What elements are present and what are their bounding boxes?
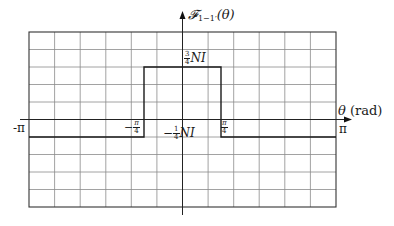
- tick-neg-pi-over-4: −π4: [124, 120, 140, 135]
- tick-left-end: -π: [13, 122, 25, 134]
- level-high-suffix: NI: [190, 51, 205, 65]
- y-axis-symbol: 𝓕: [188, 7, 198, 22]
- y-axis-arrow-icon: [180, 11, 186, 19]
- y-axis-subscript: 1−1′: [198, 14, 217, 23]
- level-low-sign: −: [163, 126, 173, 140]
- fraction-denominator: 4: [133, 128, 139, 135]
- tick-neg-sign: −: [124, 121, 133, 134]
- level-low-label: −14NI: [163, 126, 195, 141]
- x-axis-unit: (rad): [350, 103, 382, 118]
- fraction: π4: [133, 120, 140, 135]
- x-axis: [20, 117, 352, 123]
- fraction-denominator: 4: [221, 128, 227, 135]
- y-axis: [180, 11, 186, 215]
- level-low-suffix: NI: [180, 126, 195, 140]
- fraction: π4: [221, 120, 228, 135]
- tick-pos-pi-over-4: π4: [221, 120, 228, 135]
- tick-right-end: π: [339, 123, 347, 135]
- level-high-label: 34NI: [184, 51, 206, 66]
- mmf-diagram: [0, 0, 394, 226]
- x-axis-label: θ (rad): [338, 104, 382, 117]
- y-axis-label: 𝓕1−1′(θ): [188, 8, 235, 23]
- y-axis-argument: (θ): [217, 7, 235, 22]
- x-axis-symbol: θ: [338, 103, 346, 118]
